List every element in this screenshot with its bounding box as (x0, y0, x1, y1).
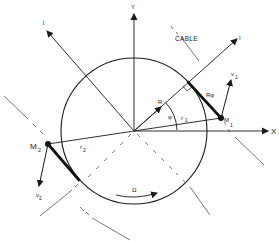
m1-label: M 1 (224, 117, 233, 128)
diagram-canvas: Y X j I CABLE R φ Rφ r 1 r 2 M 1 M 2 v 1… (0, 0, 279, 242)
v1-label: v 1 (231, 71, 238, 80)
m2-label: M 2 (30, 142, 41, 153)
r1-label: r 1 (181, 115, 188, 123)
svg-text:r: r (80, 144, 82, 150)
i-axis-label: I (239, 35, 241, 41)
svg-text:1: 1 (235, 74, 238, 80)
j-axis (47, 31, 134, 131)
cable-mechanics-diagram: Y X j I CABLE R φ Rφ r 1 r 2 M 1 M 2 v 1… (0, 0, 279, 242)
omega-rotation-arrow (116, 193, 157, 197)
svg-text:M: M (224, 117, 229, 123)
svg-text:2: 2 (83, 147, 86, 153)
j-axis-label: j (42, 19, 44, 25)
svg-text:M: M (30, 142, 37, 151)
x-axis-label: X (271, 127, 277, 136)
phi-label: φ (168, 114, 172, 120)
r-phi-label: Rφ (206, 92, 214, 98)
cable-label: CABLE (175, 35, 198, 42)
svg-text:2: 2 (38, 147, 41, 153)
svg-text:1: 1 (230, 122, 233, 128)
svg-text:2: 2 (39, 195, 42, 201)
svg-text:v: v (231, 71, 234, 77)
v2-label: v 2 (36, 192, 42, 201)
svg-text:1: 1 (185, 117, 188, 123)
v1-vector (221, 80, 231, 118)
r2-label: r 2 (80, 144, 86, 153)
omega-label: Ω (132, 187, 137, 193)
radius-label: R (158, 99, 163, 105)
svg-text:r: r (181, 115, 183, 121)
y-axis-label: Y (131, 4, 135, 10)
